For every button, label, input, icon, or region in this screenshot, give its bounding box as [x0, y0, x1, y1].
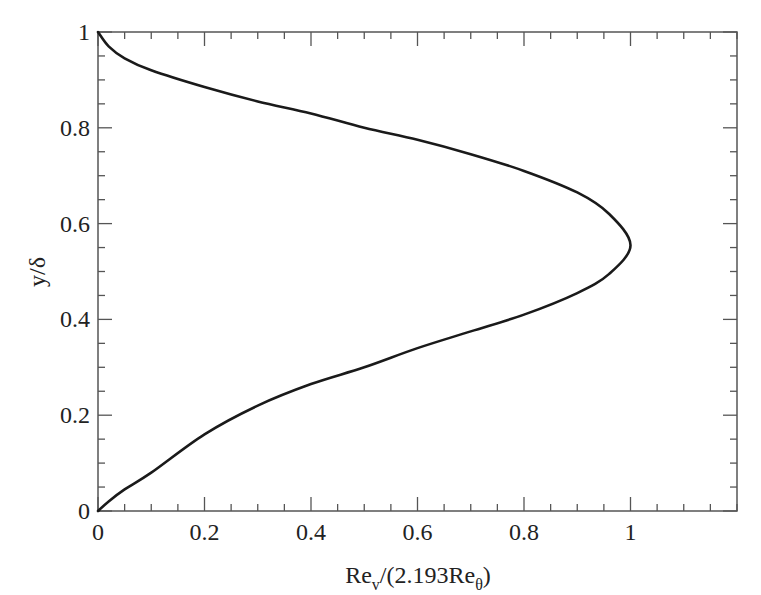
- x-tick-label: 0: [92, 519, 104, 545]
- y-tick-label: 0.6: [60, 211, 90, 237]
- plot-frame: [98, 32, 737, 511]
- x-tick-label: 1: [625, 519, 637, 545]
- axis-ticks: [98, 32, 737, 511]
- x-tick-label: 0.8: [509, 519, 539, 545]
- y-tick-label: 0.8: [60, 115, 90, 141]
- chart: 00.20.40.60.81 00.20.40.60.81 Rev/(2.193…: [0, 0, 761, 595]
- y-tick-label: 0.2: [60, 402, 90, 428]
- x-tick-label: 0.6: [403, 519, 433, 545]
- y-tick-label: 0: [78, 498, 90, 524]
- y-axis-label: y/δ: [24, 257, 50, 287]
- x-tick-labels: 00.20.40.60.81: [92, 519, 637, 545]
- x-tick-label: 0.4: [296, 519, 326, 545]
- y-tick-label: 0.4: [60, 306, 90, 332]
- x-tick-label: 0.2: [190, 519, 220, 545]
- y-tick-label: 1: [78, 19, 90, 45]
- y-tick-labels: 00.20.40.60.81: [60, 19, 90, 524]
- x-axis-label: Rev/(2.193Reθ): [345, 562, 491, 593]
- profile-curve: [98, 32, 631, 511]
